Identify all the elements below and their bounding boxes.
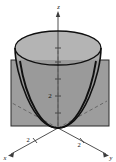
y-tick-label-2: 2 (77, 141, 80, 148)
x-axis (11, 128, 58, 154)
x-tick-label-2: 2 (26, 136, 29, 143)
z-axis-label: z (56, 3, 60, 10)
x-tick-2 (33, 138, 37, 143)
z-axis-arrowhead (56, 11, 60, 17)
x-axis-arrowhead (8, 153, 14, 158)
y-axis-arrowhead (103, 153, 109, 158)
paraboloid-figure: z x y 2 2 2 (0, 0, 116, 162)
z-tick-label-2: 2 (48, 92, 52, 100)
y-axis-label: y (109, 154, 113, 161)
x-axis-label: x (3, 154, 7, 161)
figure-canvas: z x y 2 2 2 (0, 0, 116, 162)
